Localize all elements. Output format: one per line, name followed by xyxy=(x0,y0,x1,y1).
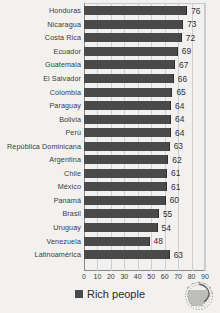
bar xyxy=(84,33,182,42)
bar xyxy=(84,20,183,29)
bar-row: Perú64 xyxy=(0,126,220,140)
bar-cell: 54 xyxy=(84,221,220,235)
bar-row: República Dominicana63 xyxy=(0,139,220,153)
bar-row: Brasil55 xyxy=(0,207,220,221)
bar-cell: 61 xyxy=(84,180,220,194)
bar-value-label: 67 xyxy=(179,60,188,70)
bar-value-label: 61 xyxy=(171,182,180,192)
x-axis-tick-label: 30 xyxy=(120,273,128,280)
bar-value-label: 64 xyxy=(175,101,184,111)
bar-cell: 64 xyxy=(84,126,220,140)
legend-swatch-rich-people xyxy=(75,290,83,298)
bar xyxy=(84,128,171,137)
category-label: Guatemala xyxy=(0,60,84,69)
bar-row: Ecuador69 xyxy=(0,45,220,59)
category-label: Perú xyxy=(0,128,84,137)
bar-cell: 61 xyxy=(84,167,220,181)
bar-value-label: 62 xyxy=(172,155,181,165)
bar-row: Chile61 xyxy=(0,167,220,181)
bar-cell: 72 xyxy=(84,31,220,45)
x-axis-tick-label: 40 xyxy=(134,273,142,280)
bar xyxy=(84,88,172,97)
bar-row: Uruguay54 xyxy=(0,221,220,235)
bar-row: México61 xyxy=(0,180,220,194)
bar-cell: 55 xyxy=(84,207,220,221)
category-label: Latinoamérica xyxy=(0,250,84,259)
bar-value-label: 76 xyxy=(191,6,200,16)
bar-value-label: 64 xyxy=(175,114,184,124)
bar xyxy=(84,196,166,205)
bar-row: Venezuela48 xyxy=(0,234,220,248)
bar xyxy=(84,155,168,164)
category-label: México xyxy=(0,182,84,191)
bar-row: Argentina62 xyxy=(0,153,220,167)
bar xyxy=(84,182,167,191)
bar-value-label: 72 xyxy=(186,33,195,43)
bar-value-label: 60 xyxy=(170,195,179,205)
bar-value-label: 54 xyxy=(162,223,171,233)
bar-row: Colombia65 xyxy=(0,85,220,99)
bar-cell: 67 xyxy=(84,58,220,72)
bar-value-label: 63 xyxy=(174,141,183,151)
bar-value-label: 48 xyxy=(154,236,163,246)
x-axis-tick-label: 50 xyxy=(147,273,155,280)
bar xyxy=(84,237,150,246)
category-label: República Dominicana xyxy=(0,142,84,151)
category-label: Brasil xyxy=(0,209,84,218)
bar-cell: 60 xyxy=(84,194,220,208)
bar-cell: 64 xyxy=(84,112,220,126)
bar-value-label: 73 xyxy=(187,19,196,29)
bar-value-label: 66 xyxy=(178,74,187,84)
category-label: Nicaragua xyxy=(0,20,84,29)
category-label: Ecuador xyxy=(0,47,84,56)
bar-value-label: 65 xyxy=(176,87,185,97)
legend-label-rich-people: Rich people xyxy=(87,288,145,300)
category-label: Panamá xyxy=(0,196,84,205)
bar-cell: 48 xyxy=(84,234,220,248)
category-label: Honduras xyxy=(0,6,84,15)
bar xyxy=(84,250,170,259)
bar xyxy=(84,60,175,69)
bar xyxy=(84,115,171,124)
bar-row: Honduras76 xyxy=(0,4,220,18)
bar-value-label: 64 xyxy=(175,128,184,138)
category-label: Paraguay xyxy=(0,101,84,110)
bar xyxy=(84,142,170,151)
bar-rows: Honduras76Nicaragua73Costa Rica72Ecuador… xyxy=(0,4,220,261)
category-label: Chile xyxy=(0,169,84,178)
bar xyxy=(84,223,158,232)
circular-sunburst-logo-icon xyxy=(179,279,219,313)
bar-cell: 66 xyxy=(84,72,220,86)
bar-row: Panamá60 xyxy=(0,194,220,208)
x-axis-tick-label: 20 xyxy=(107,273,115,280)
bar-chart: Honduras76Nicaragua73Costa Rica72Ecuador… xyxy=(0,0,220,313)
bar-row: Costa Rica72 xyxy=(0,31,220,45)
bar-row: Latinoamérica63 xyxy=(0,248,220,262)
category-label: El Salvador xyxy=(0,74,84,83)
bar-value-label: 69 xyxy=(182,46,191,56)
category-label: Venezuela xyxy=(0,237,84,246)
bar-row: Nicaragua73 xyxy=(0,18,220,32)
bar-row: Paraguay64 xyxy=(0,99,220,113)
category-label: Argentina xyxy=(0,155,84,164)
category-label: Uruguay xyxy=(0,223,84,232)
bar xyxy=(84,101,171,110)
bar-cell: 65 xyxy=(84,85,220,99)
bar-cell: 63 xyxy=(84,139,220,153)
bar-cell: 63 xyxy=(84,248,220,262)
bar xyxy=(84,6,187,15)
bar-cell: 62 xyxy=(84,153,220,167)
bar-cell: 76 xyxy=(84,4,220,18)
category-label: Costa Rica xyxy=(0,33,84,42)
bar-cell: 73 xyxy=(84,18,220,32)
bar-cell: 64 xyxy=(84,99,220,113)
bar xyxy=(84,209,159,218)
bar-value-label: 61 xyxy=(171,168,180,178)
bar xyxy=(84,74,174,83)
bar xyxy=(84,169,167,178)
x-axis-tick-label: 10 xyxy=(94,273,102,280)
bar-row: El Salvador66 xyxy=(0,72,220,86)
bar-row: Guatemala67 xyxy=(0,58,220,72)
bar-value-label: 63 xyxy=(174,250,183,260)
x-axis-tick-label: 60 xyxy=(161,273,169,280)
